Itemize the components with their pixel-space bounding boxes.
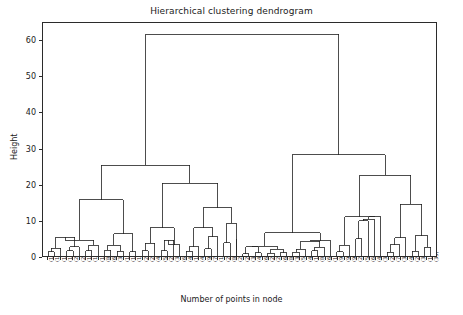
- y-tick-label: 0: [10, 253, 36, 262]
- y-tick-label: 50: [10, 72, 36, 81]
- plot-area: [42, 22, 437, 257]
- y-tick-label: 20: [10, 180, 36, 189]
- y-tick-mark: [39, 257, 42, 258]
- dendrogram-figure: Hierarchical clustering dendrogram Heigh…: [0, 0, 463, 315]
- page-title: Hierarchical clustering dendrogram: [0, 6, 463, 16]
- y-tick-label: 10: [10, 216, 36, 225]
- y-tick-label: 40: [10, 108, 36, 117]
- y-tick-label: 60: [10, 36, 36, 45]
- dendrogram-lines: [43, 23, 436, 256]
- y-tick-label: 30: [10, 144, 36, 153]
- x-axis-label: Number of points in node: [0, 295, 463, 304]
